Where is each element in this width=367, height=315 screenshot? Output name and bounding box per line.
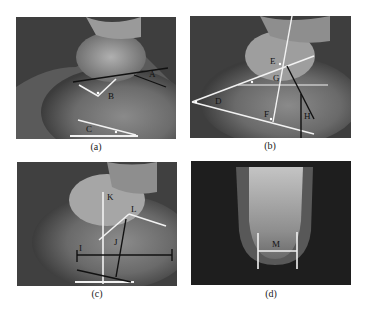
caption-b: (b): [250, 140, 290, 151]
xray-image-b: D E F G H: [190, 16, 351, 138]
xray-image-c: K L I J: [17, 162, 177, 286]
caption-c: (c): [77, 288, 117, 299]
label-i: I: [79, 243, 82, 253]
label-f: F: [264, 109, 269, 119]
caption-d: (d): [251, 288, 291, 299]
label-d: D: [215, 96, 222, 106]
label-g: G: [273, 73, 280, 83]
caption-a: (a): [76, 141, 116, 152]
label-j: J: [114, 237, 118, 247]
label-m: M: [272, 239, 280, 249]
panel-a-lateral-xray: A B C: [16, 17, 176, 139]
xray-image-d: M: [191, 161, 351, 285]
label-l: L: [131, 204, 137, 214]
label-e: E: [270, 56, 276, 66]
label-h: H: [304, 111, 311, 121]
label-a: A: [149, 69, 156, 79]
panel-c-lateral-xray: K L I J: [17, 162, 177, 286]
label-b: B: [108, 91, 114, 101]
panel-d-axial-xray: M: [191, 161, 351, 285]
panel-b-lateral-xray: D E F G H: [190, 16, 351, 138]
label-c: C: [86, 124, 92, 134]
xray-image-a: A B C: [16, 17, 176, 139]
label-k: K: [107, 192, 114, 202]
